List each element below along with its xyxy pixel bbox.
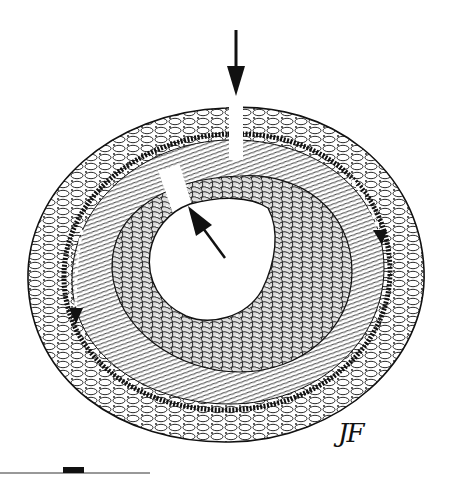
artist-signature: JF [338, 418, 362, 448]
scale-bar [0, 467, 150, 473]
artery-illustration [0, 0, 452, 477]
top-arrow-icon [227, 30, 245, 96]
